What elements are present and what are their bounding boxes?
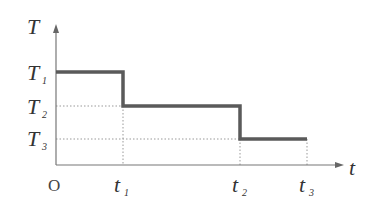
svg-text:t: t: [299, 172, 306, 197]
svg-text:1: 1: [42, 75, 47, 86]
svg-text:t: t: [114, 172, 121, 197]
svg-text:T: T: [27, 126, 41, 151]
origin-label: O: [48, 176, 60, 195]
svg-text:3: 3: [41, 141, 47, 152]
x-tick-t3: t 3: [299, 172, 314, 198]
step-line: [56, 72, 307, 139]
x-tick-t2: t 2: [232, 172, 247, 198]
axes: [56, 30, 338, 165]
y-tick-T3: T 3: [27, 126, 47, 152]
x-tick-t1: t 1: [114, 172, 129, 198]
x-axis-arrow-icon: [335, 162, 344, 168]
svg-text:1: 1: [124, 187, 129, 198]
svg-text:t: t: [232, 172, 239, 197]
guide-lines: [56, 106, 307, 165]
x-axis-label: t: [349, 155, 356, 180]
svg-text:2: 2: [242, 187, 247, 198]
y-tick-T1: T 1: [27, 60, 47, 86]
y-tick-T2: T 2: [27, 94, 47, 120]
y-axis-arrow-icon: [53, 24, 59, 33]
svg-text:T: T: [27, 60, 41, 85]
step-diagram: T t O T 1 T 2 T 3 t 1 t 2 t 3: [0, 0, 377, 210]
y-axis-label: T: [27, 14, 41, 39]
svg-text:T: T: [27, 94, 41, 119]
svg-text:3: 3: [308, 187, 314, 198]
svg-text:2: 2: [42, 109, 47, 120]
